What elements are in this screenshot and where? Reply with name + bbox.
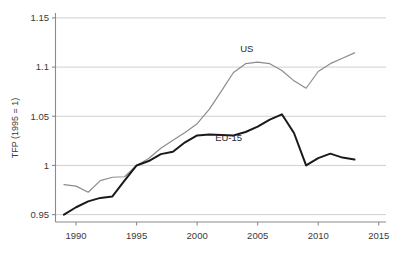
y-tick-label-1.15: 1.15 xyxy=(31,12,50,23)
x-tick-label-2010: 2010 xyxy=(308,230,329,241)
x-tick-label-1990: 1990 xyxy=(66,230,87,241)
series-line-us xyxy=(64,53,355,192)
x-axis xyxy=(56,222,387,226)
y-tick-label-0.95: 0.95 xyxy=(31,209,50,220)
y-tick-label-1.05: 1.05 xyxy=(31,111,50,122)
y-tick-labels: 0.9511.051.11.15 xyxy=(31,12,50,220)
series-line-eu-15 xyxy=(64,114,355,214)
y-axis xyxy=(52,13,56,222)
x-tick-label-2015: 2015 xyxy=(368,230,389,241)
y-axis-title-text: TFP (1995 = 1) xyxy=(10,98,20,159)
x-tick-label-2005: 2005 xyxy=(247,230,268,241)
x-tick-labels: 199019952000200520102015 xyxy=(66,230,390,241)
x-tick-label-2000: 2000 xyxy=(187,230,208,241)
y-tick-label-1.1: 1.1 xyxy=(36,61,49,72)
series-label-us: US xyxy=(240,43,253,54)
series-label-eu-15: EU-15 xyxy=(215,132,242,143)
x-tick-label-1995: 1995 xyxy=(126,230,147,241)
tfp-line-chart: 0.9511.051.11.15 19901995200020052010201… xyxy=(0,0,401,253)
chart-canvas: 0.9511.051.11.15 19901995200020052010201… xyxy=(0,0,401,253)
y-axis-title: TFP (1995 = 1) xyxy=(10,98,20,159)
series-inline-labels: USEU-15 xyxy=(215,43,253,144)
data-series xyxy=(64,53,355,215)
y-tick-label-1: 1 xyxy=(44,160,49,171)
gridlines xyxy=(56,18,387,215)
